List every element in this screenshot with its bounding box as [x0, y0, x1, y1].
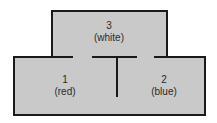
region-2-label: (blue)	[151, 86, 177, 97]
region-1-number: 1	[62, 74, 68, 85]
region-2-number: 2	[161, 74, 167, 85]
region-3-label: (white)	[94, 32, 124, 43]
region-diagram	[0, 0, 217, 123]
region-1-label: (red)	[54, 86, 75, 97]
region-3-number: 3	[106, 20, 112, 31]
